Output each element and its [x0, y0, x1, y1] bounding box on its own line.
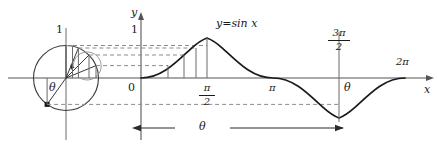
theta-span-label: θ	[196, 121, 209, 132]
tick-two-pi: 2π	[396, 57, 409, 67]
sine-ordinate-lines	[168, 38, 207, 78]
tick-three-pi-over-2-denominator: 2	[328, 42, 350, 53]
theta-circle-label: θ	[49, 82, 56, 93]
origin-label: 0	[128, 82, 135, 93]
x-axis-label: x	[424, 84, 430, 95]
theta-axis-label: θ	[344, 82, 351, 93]
y-axis-label: y	[131, 7, 137, 18]
tick-three-pi-over-2-numerator: 3π	[328, 28, 350, 39]
tick-pi-over-2-denominator: 2	[199, 97, 215, 108]
axis-one-label: 1	[131, 24, 138, 35]
y-axis	[138, 12, 144, 140]
circle-radii	[66, 46, 96, 79]
tick-pi: π	[269, 83, 276, 93]
tick-pi-over-2-numerator: π	[199, 83, 215, 94]
transfer-dashed-lines	[47, 46, 339, 105]
theta-span-arrow	[132, 125, 344, 131]
sine-construction-figure: 1 y 1 0 θ y=sin x π 2 π 3π 2 2π θ x θ	[0, 0, 437, 150]
tick-pi-over-2: π 2	[199, 83, 215, 107]
circle-one-label: 1	[56, 24, 63, 35]
tick-three-pi-over-2: 3π 2	[328, 28, 350, 52]
curve-equation-label: y=sin x	[216, 18, 257, 29]
